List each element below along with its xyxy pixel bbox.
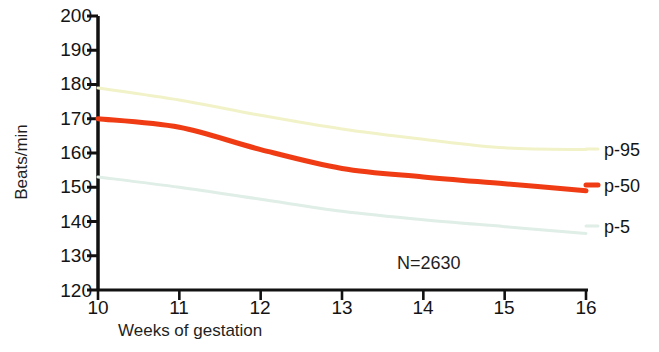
x-tick-label: 13 xyxy=(322,298,362,317)
y-tick-label: 170 xyxy=(46,109,92,128)
x-tick-label: 15 xyxy=(484,298,524,317)
y-tick-label: 180 xyxy=(46,74,92,93)
x-tick-label: 10 xyxy=(78,298,118,317)
y-tick-label: 190 xyxy=(46,40,92,59)
legend-label-p95: p-95 xyxy=(604,140,640,161)
series-line-p-95 xyxy=(98,88,586,150)
x-tick-label: 14 xyxy=(403,298,443,317)
y-tick-label: 160 xyxy=(46,143,92,162)
sample-size-annotation: N=2630 xyxy=(397,253,461,274)
x-tick-label: 16 xyxy=(566,298,606,317)
y-tick-label: 140 xyxy=(46,212,92,231)
y-tick-label: 150 xyxy=(46,177,92,196)
y-tick-label: 200 xyxy=(46,6,92,25)
x-axis-title: Weeks of gestation xyxy=(118,321,262,341)
axis-lines xyxy=(87,16,588,300)
y-tick-label: 130 xyxy=(46,246,92,265)
data-series-group xyxy=(98,88,586,234)
legend-label-p50: p-50 xyxy=(604,176,640,197)
x-tick-label: 11 xyxy=(159,298,199,317)
legend-label-p5: p-5 xyxy=(604,217,630,238)
fetal-heart-rate-chart: Beats/min 200 190 180 170 160 150 140 13… xyxy=(0,0,659,352)
legend-swatches xyxy=(586,149,598,226)
x-tick-label: 12 xyxy=(240,298,280,317)
